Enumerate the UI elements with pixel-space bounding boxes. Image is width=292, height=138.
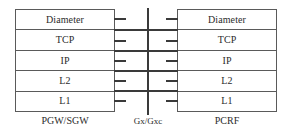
stub-left-diameter bbox=[114, 18, 126, 20]
layer-label: L1 bbox=[59, 96, 70, 106]
layer-label: IP bbox=[222, 56, 231, 66]
peer-link-tcp-ip bbox=[114, 50, 178, 52]
layer-left-ip: IP bbox=[16, 51, 114, 71]
layer-left-diameter: Diameter bbox=[16, 10, 114, 30]
node-caption-pgw-sgw: PGW/SGW bbox=[15, 116, 115, 126]
stub-right-l1 bbox=[166, 100, 178, 102]
node-caption-pcrf: PCRF bbox=[177, 116, 277, 126]
layer-right-l1: L1 bbox=[178, 92, 276, 111]
protocol-stack-right: Diameter TCP IP L2 L1 bbox=[177, 9, 277, 112]
layer-label: TCP bbox=[56, 35, 75, 45]
layer-right-ip: IP bbox=[178, 51, 276, 71]
layer-right-tcp: TCP bbox=[178, 30, 276, 50]
layer-left-l1: L1 bbox=[16, 92, 114, 111]
layer-label: Diameter bbox=[46, 15, 84, 25]
layer-left-l2: L2 bbox=[16, 71, 114, 91]
peer-link-diameter-tcp bbox=[114, 29, 178, 31]
layer-right-l2: L2 bbox=[178, 71, 276, 91]
protocol-stack-diagram: Diameter TCP IP L2 L1 PGW/SGW Diameter T… bbox=[0, 0, 292, 138]
peer-link-ip-l2 bbox=[114, 70, 178, 72]
stub-right-tcp bbox=[166, 40, 178, 42]
layer-right-diameter: Diameter bbox=[178, 10, 276, 30]
layer-label: TCP bbox=[218, 35, 237, 45]
stub-left-l2 bbox=[114, 80, 126, 82]
stub-left-ip bbox=[114, 60, 126, 62]
peer-link-l2-l1 bbox=[114, 90, 178, 92]
interface-reference-line bbox=[147, 8, 149, 115]
layer-label: Diameter bbox=[208, 15, 246, 25]
stub-right-l2 bbox=[166, 80, 178, 82]
layer-label: IP bbox=[60, 56, 69, 66]
stub-left-tcp bbox=[114, 40, 126, 42]
stub-right-ip bbox=[166, 60, 178, 62]
interface-caption-gx-gxc: Gx/Gxc bbox=[106, 117, 190, 126]
stub-right-diameter bbox=[166, 18, 178, 20]
layer-label: L2 bbox=[221, 76, 232, 86]
protocol-stack-left: Diameter TCP IP L2 L1 bbox=[15, 9, 115, 112]
stub-left-l1 bbox=[114, 100, 126, 102]
layer-label: L2 bbox=[59, 76, 70, 86]
layer-label: L1 bbox=[221, 96, 232, 106]
layer-left-tcp: TCP bbox=[16, 30, 114, 50]
